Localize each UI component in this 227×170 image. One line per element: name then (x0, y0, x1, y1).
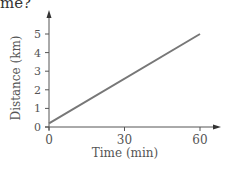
x-axis (45, 125, 221, 130)
y-tick-label: 3 (34, 65, 41, 78)
y-tick-label: 1 (34, 102, 41, 115)
y-tick-label: 4 (34, 47, 41, 60)
x-tick-label: 0 (45, 133, 53, 147)
x-tick-label: 60 (192, 133, 207, 147)
x-axis-arrow-icon (213, 125, 221, 130)
y-axis-label: Distance (km) (9, 36, 23, 121)
y-tick-label: 0 (34, 121, 41, 134)
data-line (49, 34, 200, 123)
distance-time-chart: 012345 03060 Time (min) Distance (km) (0, 0, 227, 170)
y-tick-label: 5 (34, 28, 41, 41)
y-ticks: 012345 (34, 28, 49, 134)
y-tick-label: 2 (34, 84, 41, 97)
x-tick-label: 30 (117, 133, 132, 147)
y-axis-arrow-icon (47, 10, 52, 18)
x-ticks: 03060 (45, 127, 207, 147)
y-axis (47, 10, 52, 130)
x-axis-label: Time (min) (92, 146, 158, 160)
